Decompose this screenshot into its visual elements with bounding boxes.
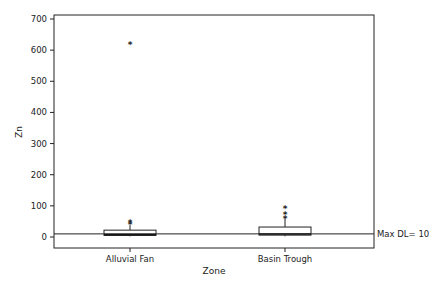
x-tick-label: Basin Trough	[258, 254, 313, 264]
y-tick-label: 700	[31, 14, 47, 24]
max-dl-label: Max DL= 10	[377, 229, 429, 239]
outlier-marker: *	[128, 40, 133, 50]
x-axis-ticks: Alluvial FanBasin Trough	[106, 248, 312, 264]
y-tick-label: 600	[31, 45, 47, 55]
box-alluvial-fan: ***	[104, 40, 156, 236]
y-axis-label: Zn	[14, 126, 24, 138]
box-basin-trough: ***	[259, 204, 311, 236]
y-tick-label: 200	[31, 170, 47, 180]
y-tick-label: 500	[31, 76, 47, 86]
outlier-marker: *	[128, 218, 133, 228]
y-tick-label: 300	[31, 139, 47, 149]
x-tick-label: Alluvial Fan	[106, 254, 154, 264]
plot-frame	[54, 15, 374, 248]
y-tick-label: 100	[31, 201, 47, 211]
x-axis-label: Zone	[203, 266, 226, 276]
box-plot: 0100200300400500600700 Alluvial FanBasin…	[0, 0, 432, 287]
boxes: ******	[104, 40, 311, 236]
y-axis-ticks: 0100200300400500600700	[31, 14, 54, 242]
outlier-marker: *	[283, 204, 288, 214]
y-tick-label: 400	[31, 107, 47, 117]
y-tick-label: 0	[42, 232, 47, 242]
